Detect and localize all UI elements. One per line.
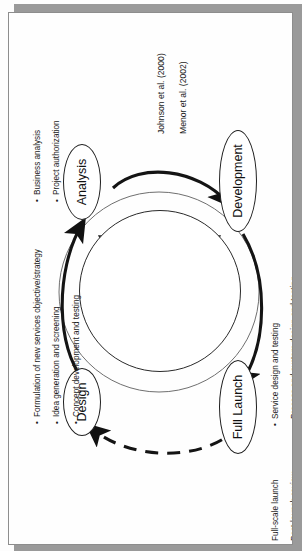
citation-johnson: Johnson et al. (2000) <box>156 29 167 134</box>
bullet-item: Business analysis <box>33 67 43 202</box>
node-full-launch-label: Full Launch <box>231 375 245 440</box>
bullet-item: Concept development and testing <box>72 242 82 424</box>
figure-canvas: Teams Organisational context Systems Tec… <box>21 29 293 545</box>
bullet-item: Process and system design and testing <box>290 221 293 426</box>
scanned-page: Teams Organisational context Systems Tec… <box>8 12 293 545</box>
bullets-design: Formulation of new services objective/st… <box>23 242 91 424</box>
bullet-item: Project authorization <box>52 67 62 202</box>
citations: Johnson et al. (2000) Menor et al. (2002… <box>145 29 200 134</box>
arrow-fulllaunch-to-design-dashed <box>91 426 239 453</box>
bullets-analysis: Business analysis Project authorization <box>23 67 72 202</box>
bullet-item: Formulation of new services objective/st… <box>33 242 43 424</box>
bullet-item: Full-scale launch <box>271 438 281 545</box>
node-analysis-label: Analysis <box>75 159 89 206</box>
node-development[interactable]: Development <box>219 130 257 232</box>
citation-menor: Menor et al. (2002) <box>178 29 189 134</box>
bullet-item: Post-launch review <box>290 438 293 545</box>
node-development-label: Development <box>231 144 245 218</box>
bullet-item: Idea generation and screening <box>52 242 62 424</box>
nsd-cycle-figure: Teams Organisational context Systems Tec… <box>21 29 293 545</box>
node-full-launch[interactable]: Full Launch <box>219 360 257 454</box>
bullet-item: Service design and testing <box>271 221 281 426</box>
bullets-development: Service design and testing Process and s… <box>261 221 293 426</box>
arrow-analysis-to-development <box>113 172 227 202</box>
center-ring <box>79 210 241 372</box>
bullets-full-launch: Full-scale launch Post-launch review <box>261 438 293 545</box>
arrow-development-to-fulllaunch <box>242 234 262 382</box>
